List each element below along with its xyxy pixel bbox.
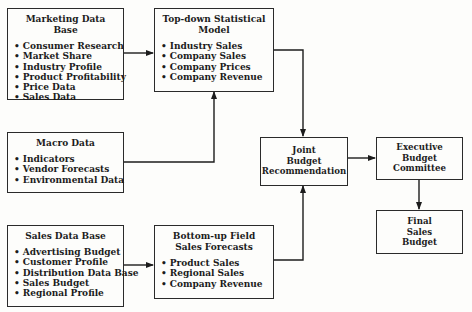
executive-budget-committee-box: Executive Budget Committee [376, 137, 463, 180]
box-title: Top-down Statistical Model [161, 14, 267, 36]
item-list: Industry Sales Company Sales Company Pri… [161, 41, 273, 82]
list-item: Company Prices [161, 62, 273, 72]
list-item: Environmental Data [14, 175, 123, 185]
list-item: Product Sales [161, 258, 273, 268]
item-list: Product Sales Regional Sales Company Rev… [161, 258, 273, 289]
marketing-data-base-box: Marketing Data Base Consumer Research Ma… [7, 8, 124, 100]
list-item: Regional Sales [161, 268, 273, 278]
list-item: Vendor Forecasts [14, 164, 123, 174]
list-item: Sales Budget [14, 278, 123, 288]
bottom-up-field-sales-forecasts-box: Bottom-up Field Sales Forecasts Product … [154, 225, 274, 299]
list-item: Company Revenue [161, 72, 273, 82]
list-item: Product Profitability [14, 72, 123, 82]
list-item: Industry Sales [161, 41, 273, 51]
item-list: Advertising Budget Customer Profile Dist… [14, 247, 123, 298]
list-item: Market Share [14, 51, 123, 61]
list-item: Customer Profile [14, 257, 123, 267]
list-item: Price Data [14, 82, 123, 92]
sales-data-base-box: Sales Data Base Advertising Budget Custo… [7, 225, 124, 307]
final-sales-budget-box: Final Sales Budget [376, 210, 463, 254]
list-item: Company Revenue [161, 279, 273, 289]
box-title: Final Sales Budget [377, 216, 462, 248]
list-item: Indicators [14, 154, 123, 164]
box-title: Macro Data [14, 138, 117, 149]
list-item: Distribution Data Base [14, 268, 123, 278]
top-down-statistical-model-box: Top-down Statistical Model Industry Sale… [154, 8, 274, 92]
list-item: Advertising Budget [14, 247, 123, 257]
macro-data-box: Macro Data Indicators Vendor Forecasts E… [7, 132, 124, 193]
list-item: Industry Profile [14, 62, 123, 72]
item-list: Consumer Research Market Share Industry … [14, 41, 123, 103]
list-item: Sales Data [14, 92, 123, 102]
box-title: Joint Budget Recommendation [261, 145, 347, 177]
list-item: Company Sales [161, 51, 273, 61]
box-title: Sales Data Base [14, 231, 117, 242]
list-item: Consumer Research [14, 41, 123, 51]
box-title: Bottom-up Field Sales Forecasts [161, 231, 267, 253]
joint-budget-recommendation-box: Joint Budget Recommendation [260, 137, 348, 186]
list-item: Regional Profile [14, 288, 123, 298]
item-list: Indicators Vendor Forecasts Environmenta… [14, 154, 123, 185]
box-title: Marketing Data Base [14, 14, 117, 36]
box-title: Executive Budget Committee [377, 142, 462, 174]
